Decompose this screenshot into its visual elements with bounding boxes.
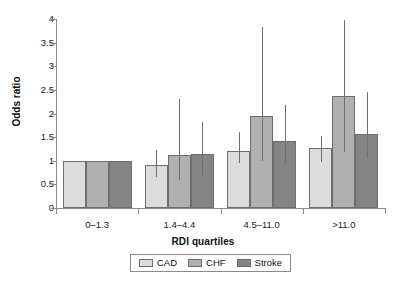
x-axis-tick-label: 4.5–11.0	[221, 219, 303, 230]
error-bar-cad-3	[321, 136, 322, 162]
error-bar-cad-1	[156, 150, 157, 176]
legend-label: CHF	[206, 258, 226, 268]
x-axis-tick-label: >11.0	[303, 219, 385, 230]
x-axis-tick	[221, 209, 222, 214]
bar-stroke-0	[109, 161, 132, 208]
y-axis-tick-label: 2.5	[20, 85, 54, 94]
x-axis-tick	[56, 209, 57, 214]
legend-label: CAD	[157, 258, 177, 268]
y-axis-tick-label: 1	[20, 156, 54, 165]
error-bar-chf-1	[179, 99, 180, 180]
x-axis-tick	[138, 209, 139, 214]
error-bar-cad-2	[239, 132, 240, 163]
error-bar-stroke-3	[367, 92, 368, 158]
x-axis-tick-label: 0–1.3	[56, 219, 138, 230]
y-axis-tick-label: 1.5	[20, 132, 54, 141]
legend-item-chf: CHF	[188, 258, 226, 268]
y-axis-tick-label: 4	[20, 14, 54, 23]
x-axis-title: RDI quartiles	[0, 236, 406, 247]
y-axis-title: Odds ratio	[11, 62, 22, 142]
y-axis-tick-label: 0.5	[20, 179, 54, 188]
x-axis-tick-label: 1.4–4.4	[138, 219, 220, 230]
y-axis-tick-label: 3	[20, 61, 54, 70]
legend-swatch-chf	[188, 259, 202, 267]
error-bar-stroke-1	[202, 122, 203, 175]
y-axis-tick-label: 2	[20, 109, 54, 118]
bar-chf-0	[86, 161, 109, 208]
legend-label: Stroke	[255, 258, 282, 268]
error-bar-chf-2	[262, 27, 263, 161]
legend-item-cad: CAD	[139, 258, 177, 268]
y-axis-tick-label: 0	[20, 203, 54, 212]
y-axis-tick-label: 3.5	[20, 38, 54, 47]
error-bar-stroke-2	[285, 105, 286, 165]
odds-ratio-bar-chart: 00.511.522.533.54 0–1.31.4–4.44.5–11.0>1…	[0, 0, 406, 285]
x-axis-tick	[385, 209, 386, 214]
bar-cad-0	[63, 161, 86, 208]
legend-swatch-cad	[139, 259, 153, 267]
x-axis-tick	[303, 209, 304, 214]
error-bar-chf-3	[344, 20, 345, 151]
legend-item-stroke: Stroke	[237, 258, 282, 268]
chart-legend: CADCHFStroke	[130, 254, 291, 272]
plot-area	[56, 19, 385, 208]
legend-swatch-stroke	[237, 259, 251, 267]
